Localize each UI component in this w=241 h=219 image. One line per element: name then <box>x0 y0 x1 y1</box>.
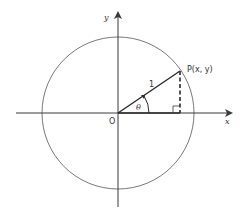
origin-label: O <box>109 117 115 126</box>
x-axis-label: x <box>225 117 230 126</box>
point-label: P(x, y) <box>187 65 213 74</box>
radius-line <box>118 71 180 113</box>
right-angle-marker <box>173 106 180 113</box>
angle-label: θ <box>136 103 141 112</box>
angle-arc <box>144 96 149 113</box>
y-axis-label: y <box>103 13 109 22</box>
unit-circle-diagram: y x O P(x, y) 1 θ <box>0 0 241 219</box>
radius-label: 1 <box>149 80 154 89</box>
